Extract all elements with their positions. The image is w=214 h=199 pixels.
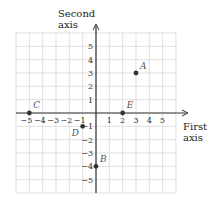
x-tick-label: −3 [47,116,59,125]
x-tick-label: 3 [133,116,138,125]
x-tick-label: 1 [107,116,112,125]
y-tick-label: 4 [88,56,93,65]
x-tick-label: 2 [120,116,125,125]
x-tick-label: −2 [61,116,73,125]
point-label-a: A [139,61,147,71]
point-c [27,111,32,116]
coordinate-plane: −5−4−3−2−112345 54321−1−2−3−4−5 ABCDE Se… [0,0,214,199]
y-axis-title-line2: axis [58,19,78,30]
y-tick-label: −4 [81,162,93,171]
point-label-e: E [126,100,134,110]
point-label-b: B [99,154,107,164]
x-axis-title-line2: axis [183,132,203,143]
x-tick-label: 5 [160,116,165,125]
axes [16,24,188,193]
y-tick-label: 1 [88,96,93,105]
y-tick-label: −2 [81,136,93,145]
point-label-c: C [33,100,40,110]
y-tick-label: 3 [88,69,93,78]
y-tick-label: 5 [88,42,93,51]
x-tick-label: −5 [21,116,33,125]
point-d [80,124,85,129]
y-tick-label: 2 [88,82,93,91]
x-tick-label: −4 [34,116,46,125]
point-b [94,164,99,169]
x-tick-label: 4 [147,116,152,125]
y-tick-label: −3 [81,149,93,158]
y-axis-title-line1: Second [58,8,96,19]
point-label-d: D [71,128,79,138]
y-tick-label: −5 [81,176,93,185]
point-a [134,71,139,76]
point-e [120,111,125,116]
x-axis-title-line1: First [183,121,207,132]
